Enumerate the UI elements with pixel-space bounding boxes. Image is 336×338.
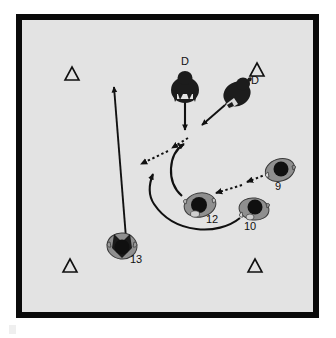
defender-center-label: D xyxy=(181,56,189,67)
player-12-label: 12 xyxy=(206,214,218,225)
player-10-icon xyxy=(238,196,271,222)
diagram-root: D D 9 10 12 13 xyxy=(0,0,336,338)
scan-artifact xyxy=(9,325,16,334)
defender-center-icon xyxy=(171,71,199,103)
court-graphics xyxy=(22,20,313,312)
cone-bottom-left-icon xyxy=(63,259,77,272)
arrow-player-13-up xyxy=(114,87,126,238)
arrow-defender-right xyxy=(202,105,225,125)
court-surface: D D 9 10 12 13 xyxy=(22,20,313,312)
pass-to-left-wing xyxy=(141,138,188,164)
pass-9-to-12 xyxy=(216,172,272,193)
cone-top-left-icon xyxy=(65,67,79,80)
arrow-player-12-curve-up xyxy=(171,144,184,196)
player-9-label: 9 xyxy=(275,181,281,192)
cone-bottom-right-icon xyxy=(248,259,262,272)
player-10-label: 10 xyxy=(244,221,256,232)
defender-right-label: D xyxy=(251,75,259,86)
player-13-label: 13 xyxy=(130,254,142,265)
